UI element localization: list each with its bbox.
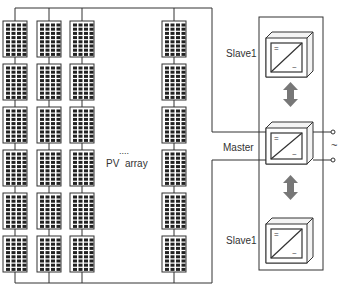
svg-text:~: ~ bbox=[292, 63, 297, 72]
pv-panel bbox=[70, 21, 94, 64]
pv-panel bbox=[37, 64, 61, 107]
slave-bottom-label: Slave1 bbox=[226, 235, 257, 246]
master-label: Master bbox=[223, 142, 254, 153]
comm-arrow-top bbox=[283, 82, 298, 107]
master-inverter: =~ bbox=[266, 122, 313, 164]
pv-panel bbox=[70, 236, 94, 272]
pv-panel bbox=[37, 236, 61, 272]
pv-panel bbox=[162, 193, 186, 236]
pv-panel bbox=[162, 236, 186, 272]
slave-inverter-top: =~ bbox=[266, 32, 313, 77]
pv-panel bbox=[37, 107, 61, 150]
pv-panel bbox=[70, 64, 94, 107]
pv-panel bbox=[162, 21, 186, 64]
pv-system-diagram: =~ =~ =~ bbox=[0, 0, 338, 286]
pv-panel bbox=[3, 107, 27, 150]
svg-text:~: ~ bbox=[292, 249, 297, 258]
pv-panel bbox=[37, 193, 61, 236]
pv-panel bbox=[3, 236, 27, 272]
slave-top-label: Slave1 bbox=[226, 48, 257, 59]
slave-inverter-bottom: =~ bbox=[266, 218, 313, 263]
pv-panel bbox=[37, 21, 61, 64]
pv-panel bbox=[70, 107, 94, 150]
pv-ellipsis: .... bbox=[119, 146, 129, 156]
pv-array-label: PV array bbox=[106, 158, 148, 169]
pv-panel bbox=[3, 64, 27, 107]
pv-panel bbox=[162, 107, 186, 150]
pv-panel bbox=[37, 150, 61, 193]
pv-panel bbox=[70, 193, 94, 236]
comm-arrow-bottom bbox=[283, 175, 298, 200]
svg-text:=: = bbox=[274, 134, 279, 143]
pv-panel bbox=[70, 150, 94, 193]
pv-array bbox=[3, 21, 186, 272]
pv-panel bbox=[162, 64, 186, 107]
pv-panel bbox=[3, 193, 27, 236]
svg-text:=: = bbox=[274, 230, 279, 239]
svg-text:~: ~ bbox=[292, 150, 297, 159]
pv-panel bbox=[3, 21, 27, 64]
svg-text:=: = bbox=[274, 44, 279, 53]
ac-output-symbol: ~ bbox=[331, 139, 337, 151]
pv-panel bbox=[162, 150, 186, 193]
pv-panel bbox=[3, 150, 27, 193]
